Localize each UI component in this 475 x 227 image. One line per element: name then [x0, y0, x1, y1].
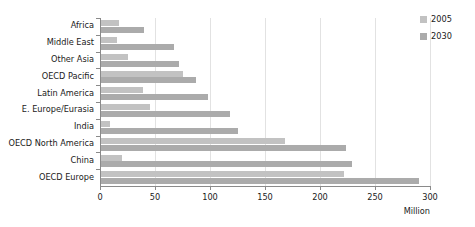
y-axis-label: China — [0, 156, 94, 165]
y-axis-label: India — [0, 122, 94, 131]
y-tick-mark — [96, 169, 100, 170]
bar-2005 — [100, 155, 122, 161]
x-tick-label: 150 — [245, 192, 285, 202]
bar-2005 — [100, 87, 143, 93]
y-tick-mark — [96, 52, 100, 53]
y-axis-label: OECD Pacific — [0, 72, 94, 81]
bar-2005 — [100, 54, 128, 60]
bar-2005 — [100, 37, 117, 43]
bar-group — [100, 85, 430, 102]
y-axis-label: OECD Europe — [0, 173, 94, 182]
bars-layer — [100, 18, 430, 186]
x-tick-mark — [430, 186, 431, 190]
legend-label: 2030 — [431, 32, 452, 41]
bar-group — [100, 152, 430, 169]
x-tick-label: 250 — [355, 192, 395, 202]
legend: 20052030 — [420, 15, 452, 49]
legend-swatch-icon — [420, 33, 427, 40]
x-tick-label: 0 — [80, 192, 120, 202]
bar-2030 — [100, 128, 238, 134]
x-tick-label: 50 — [135, 192, 175, 202]
bar-2030 — [100, 111, 230, 117]
x-tick-label: 200 — [300, 192, 340, 202]
y-tick-mark — [96, 136, 100, 137]
bar-2030 — [100, 94, 208, 100]
y-tick-mark — [96, 35, 100, 36]
bar-group — [100, 52, 430, 69]
y-axis-line — [100, 18, 101, 186]
y-tick-mark — [96, 119, 100, 120]
bar-group — [100, 136, 430, 153]
y-axis-label: Africa — [0, 21, 94, 30]
bar-group — [100, 68, 430, 85]
x-tick-mark — [100, 186, 101, 190]
bar-2005 — [100, 104, 150, 110]
bar-2005 — [100, 171, 344, 177]
x-tick-mark — [155, 186, 156, 190]
bar-2005 — [100, 71, 183, 77]
legend-label: 2005 — [431, 15, 452, 24]
bar-2005 — [100, 121, 110, 127]
y-axis-label: Middle East — [0, 38, 94, 47]
x-tick-mark — [320, 186, 321, 190]
x-tick-mark — [375, 186, 376, 190]
bar-2030 — [100, 44, 174, 50]
y-axis-label: Latin America — [0, 89, 94, 98]
bar-2030 — [100, 27, 144, 33]
y-axis-label: Other Asia — [0, 55, 94, 64]
x-tick-label: 100 — [190, 192, 230, 202]
bar-group — [100, 169, 430, 186]
x-tick-mark — [210, 186, 211, 190]
bar-2030 — [100, 61, 179, 67]
y-tick-mark — [96, 85, 100, 86]
y-tick-mark — [96, 152, 100, 153]
y-axis-label: OECD North America — [0, 139, 94, 148]
bar-group — [100, 102, 430, 119]
x-tick-mark — [265, 186, 266, 190]
bar-2030 — [100, 145, 346, 151]
y-tick-mark — [96, 102, 100, 103]
bar-group — [100, 35, 430, 52]
bar-2030 — [100, 77, 196, 83]
y-tick-mark — [96, 68, 100, 69]
y-tick-mark — [96, 18, 100, 19]
legend-swatch-icon — [420, 16, 427, 23]
bar-2030 — [100, 161, 352, 167]
bar-chart: AfricaMiddle EastOther AsiaOECD PacificL… — [0, 0, 475, 227]
bar-group — [100, 18, 430, 35]
legend-item[interactable]: 2005 — [420, 15, 452, 24]
bar-2005 — [100, 138, 285, 144]
bar-2005 — [100, 20, 119, 26]
bar-2030 — [100, 178, 419, 184]
bar-group — [100, 119, 430, 136]
legend-item[interactable]: 2030 — [420, 32, 452, 41]
y-axis-label: E. Europe/Eurasia — [0, 105, 94, 114]
x-axis-title: Million — [330, 206, 430, 216]
x-tick-label: 300 — [410, 192, 450, 202]
